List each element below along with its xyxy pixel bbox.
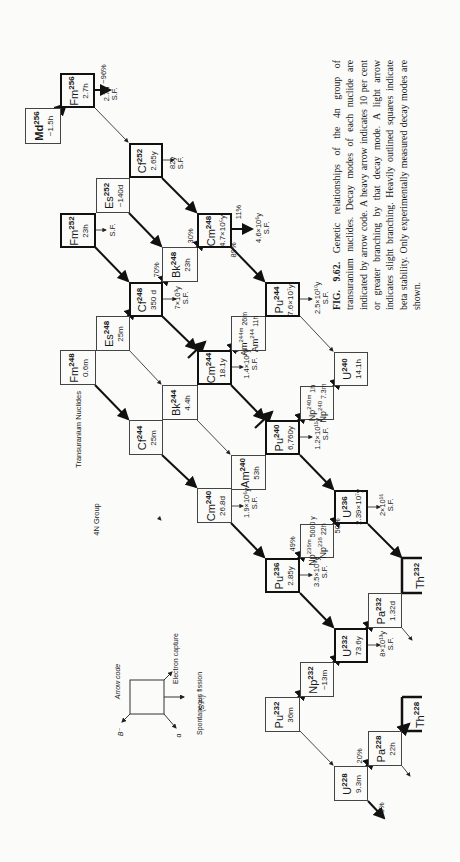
nuclide-md256: Md256~1.5h <box>25 108 61 144</box>
nuclide-fm248: Fm2480.6m <box>60 350 96 385</box>
group-subtitle: Transuranium Nuclides <box>74 391 83 468</box>
nuclide-np232: Np232~13m <box>300 662 334 697</box>
u228-alpha-branch: 80% <box>378 802 386 817</box>
nuclide-pu240: Pu2406,760y <box>265 420 300 455</box>
fm256-branch: ~96% <box>100 64 108 83</box>
nuclide-cf252: Cf2522.65y <box>129 143 163 178</box>
nuclide-pa228: Pa22822h <box>368 731 402 766</box>
cm248-alpha-branch: 89% <box>230 242 238 257</box>
cm244-sf: 1.4×10⁷yS.F. <box>243 349 259 379</box>
figure-caption: FIG. 9.62. Genetic relationships of the … <box>330 60 423 310</box>
nuclide-cm248: Cm2484.7×10⁵y <box>197 213 232 248</box>
nuclide-u240: U24014.1h <box>334 352 368 386</box>
legend-electron-capture: Electron capture <box>172 633 179 684</box>
nuclide-pu244: Pu2447.6×10⁷y <box>265 282 300 317</box>
nuclide-cf244: Cf24425m <box>129 420 163 455</box>
nuclide-u232: U23273.6y <box>334 628 368 663</box>
nuclide-pu232: Pu23236m <box>265 697 300 732</box>
fm256-sf: 2.7hS.F. <box>103 87 119 102</box>
legend-alpha: α <box>175 733 182 737</box>
nuclide-np236: Np236m 5000 yNp236 22h <box>300 524 334 558</box>
nuclide-es252: Es252~140d <box>96 178 130 213</box>
u232-sf: 8×10¹³yS.F. <box>379 631 395 657</box>
pu236-branch: 49% <box>289 536 297 551</box>
cf252-sf: 82yS.F. <box>169 156 185 169</box>
u236-sf: 2×10¹⁶S.F. <box>379 494 395 516</box>
nuclide-cf248: Cf248350 d <box>129 282 163 317</box>
nuclide-am240: Am24053h <box>231 455 266 490</box>
nuclide-es248: Es24825m <box>96 316 130 351</box>
legend-sf-abbrev: (S.F.) <box>198 695 205 712</box>
pu240-sf: 1.2×10¹¹yS.F. <box>314 418 330 450</box>
nuclide-pu236: Pu2362.85y <box>265 558 300 593</box>
cf248-sf: 7×10³yS.F. <box>174 286 190 309</box>
nuclide-np240: Np240m 1hNp240 7.3m <box>300 386 334 420</box>
legend-heading: Arrow code <box>114 664 121 699</box>
nuclide-fm252: Fm25223h <box>60 213 96 248</box>
cm248-sf: 4.6×10⁶yS.F. <box>255 213 271 243</box>
nuclide-fm256: Fm2562.7h <box>60 73 95 108</box>
cf248-branch: 70% <box>153 262 161 277</box>
u236-branch: 50% <box>334 518 342 533</box>
fm252-sf: S.F. <box>109 223 117 236</box>
caption-text: Genetic relationships of the 4n group of… <box>331 60 422 310</box>
nuclide-bk248: Bk24823h <box>162 247 198 282</box>
nuclide-cm240: Cm24026.8d <box>197 488 232 523</box>
pu236-sf: 3.5×10⁹yS.F. <box>313 557 329 587</box>
nuclide-am244: Am244m 26mAm244 11h <box>231 316 266 351</box>
nuclide-pa232: Pa2321.32d <box>368 593 402 628</box>
nuclide-th228: Th228 <box>402 697 436 732</box>
nuclide-u228: U2289.3m <box>334 766 368 801</box>
bk248-branch: 30% <box>187 228 195 243</box>
cm240-sf: 1.9×10⁶yS.F. <box>243 488 259 518</box>
cm248-sf-branch: 11% <box>235 205 243 219</box>
group-title: 4N Group <box>92 503 101 536</box>
nuclide-th232: Th232 <box>402 558 436 593</box>
nuclide-cm244: Cm24418.1y <box>197 350 232 385</box>
pu244-sf: 2.5×10¹⁰yS.F. <box>314 282 330 314</box>
u228-ec-branch: 20% <box>356 748 364 763</box>
legend-beta: B⁻ <box>117 728 125 737</box>
caption-fig-label: FIG. 9.62. <box>331 262 342 310</box>
nuclide-bk244: Bk2444.4h <box>162 385 198 420</box>
